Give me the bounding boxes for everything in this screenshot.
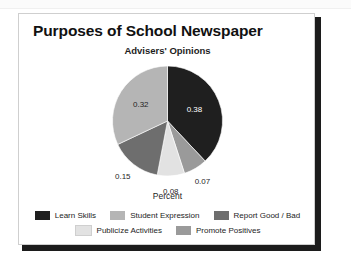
presentation-slide[interactable]: Purposes of School Newspaper Advisers' O… [18, 13, 315, 245]
legend-item-label: Report Good / Bad [234, 211, 301, 220]
pie-slice-value-label: 0.15 [115, 172, 131, 181]
page-title: Purposes of School Newspaper [33, 22, 263, 40]
pie-chart-svg [19, 58, 316, 190]
legend-color-swatch [176, 226, 191, 235]
legend-item[interactable]: Report Good / Bad [214, 211, 301, 220]
pie-slice-group [112, 66, 222, 176]
chart-axis-caption: Percent [19, 191, 316, 201]
pie-slice-value-label: 0.07 [195, 177, 211, 186]
legend-color-swatch [75, 225, 92, 236]
legend-item-label: Learn Skills [55, 211, 96, 220]
pie-slice-value-label: 0.32 [133, 100, 149, 109]
page-top-strip [0, 0, 351, 9]
page-background: Purposes of School Newspaper Advisers' O… [0, 0, 351, 267]
legend-row: Publicize ActivitiesPromote Positives [19, 223, 316, 238]
legend-item[interactable]: Publicize Activities [75, 225, 162, 236]
pie-slice-value-label: 0.38 [187, 105, 203, 114]
legend-item[interactable]: Learn Skills [35, 211, 96, 220]
legend-item[interactable]: Promote Positives [176, 226, 260, 235]
chart-title: Advisers' Opinions [19, 45, 316, 56]
legend-row: Learn SkillsStudent ExpressionReport Goo… [19, 208, 316, 223]
legend-color-swatch [35, 211, 50, 220]
legend-item-label: Publicize Activities [97, 226, 162, 235]
chart-legend: Learn SkillsStudent ExpressionReport Goo… [19, 208, 316, 238]
legend-item-label: Promote Positives [196, 226, 260, 235]
legend-item-label: Student Expression [130, 211, 199, 220]
legend-color-swatch [110, 211, 125, 220]
pie-chart: 0.380.070.080.150.32 [19, 58, 316, 190]
legend-color-swatch [214, 211, 229, 220]
legend-item[interactable]: Student Expression [110, 211, 199, 220]
